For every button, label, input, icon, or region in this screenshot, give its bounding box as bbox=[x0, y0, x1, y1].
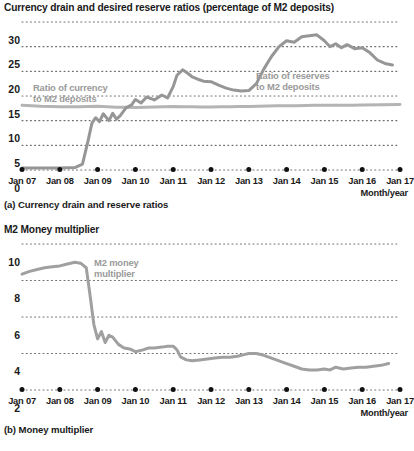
figure-container: Currency drain and desired reserve ratio… bbox=[0, 0, 414, 451]
y-tick-label: 10 bbox=[0, 257, 20, 268]
y-tick-label: 15 bbox=[0, 109, 20, 120]
x-tick-label: Jan 16 bbox=[348, 396, 376, 406]
annotation-m2-money-multiplier: M2 money multiplier bbox=[94, 257, 139, 279]
chart-a-x-axis-labels: Jan 07Jan 08Jan 09Jan 10Jan 11Jan 12Jan … bbox=[0, 176, 414, 190]
y-tick-label: 25 bbox=[0, 59, 20, 70]
chart-a-title: Currency drain and desired reserve ratio… bbox=[4, 2, 334, 13]
chart-b-title: M2 Money multiplier bbox=[4, 224, 99, 235]
chart-b-axis-name: Month/year bbox=[360, 408, 408, 418]
y-tick-label: 5 bbox=[0, 158, 20, 169]
y-tick-label: 8 bbox=[0, 293, 20, 304]
x-tick-label: Jan 07 bbox=[8, 176, 36, 186]
x-tick-label: Jan 10 bbox=[122, 396, 150, 406]
x-tick-label: Jan 14 bbox=[273, 176, 301, 186]
panel-money-multiplier: M2 Money multiplier 246810 M2 money mult… bbox=[0, 222, 414, 451]
x-tick-label: Jan 17 bbox=[386, 396, 414, 406]
y-tick-label: 30 bbox=[0, 35, 20, 46]
y-tick-label: 4 bbox=[0, 366, 20, 377]
y-tick-label: 6 bbox=[0, 330, 20, 341]
panel-currency-reserve-ratios: Currency drain and desired reserve ratio… bbox=[0, 0, 414, 215]
chart-a-caption: (a) Currency drain and reserve ratios bbox=[4, 199, 168, 210]
x-tick-label: Jan 12 bbox=[197, 176, 225, 186]
x-tick-label: Jan 15 bbox=[311, 396, 339, 406]
chart-b-plot-area: 246810 bbox=[0, 240, 414, 393]
annotation-currency-ratio: Ratio of currency to M2 deposits bbox=[33, 82, 108, 104]
y-tick-label: 20 bbox=[0, 84, 20, 95]
chart-b-caption: (b) Money multiplier bbox=[4, 424, 93, 435]
x-tick-label: Jan 14 bbox=[273, 396, 301, 406]
x-tick-label: Jan 11 bbox=[160, 176, 187, 186]
x-tick-label: Jan 09 bbox=[84, 396, 112, 406]
x-tick-label: Jan 07 bbox=[8, 396, 36, 406]
x-tick-label: Jan 09 bbox=[84, 176, 112, 186]
x-tick-label: Jan 08 bbox=[46, 396, 74, 406]
annotation-reserves-ratio: Ratio of reserves to M2 deposits bbox=[256, 70, 330, 92]
x-tick-label: Jan 11 bbox=[160, 396, 187, 406]
x-tick-label: Jan 15 bbox=[311, 176, 339, 186]
x-tick-label: Jan 17 bbox=[386, 176, 414, 186]
x-tick-label: Jan 13 bbox=[235, 396, 263, 406]
x-tick-label: Jan 16 bbox=[348, 176, 376, 186]
chart-b-x-axis-labels: Jan 07Jan 08Jan 09Jan 10Jan 11Jan 12Jan … bbox=[0, 396, 414, 410]
x-tick-label: Jan 12 bbox=[197, 396, 225, 406]
chart-b-svg bbox=[0, 240, 414, 393]
y-tick-label: 10 bbox=[0, 133, 20, 144]
chart-a-axis-name: Month/year bbox=[360, 188, 408, 198]
x-tick-label: Jan 13 bbox=[235, 176, 263, 186]
x-tick-label: Jan 08 bbox=[46, 176, 74, 186]
x-tick-label: Jan 10 bbox=[122, 176, 150, 186]
